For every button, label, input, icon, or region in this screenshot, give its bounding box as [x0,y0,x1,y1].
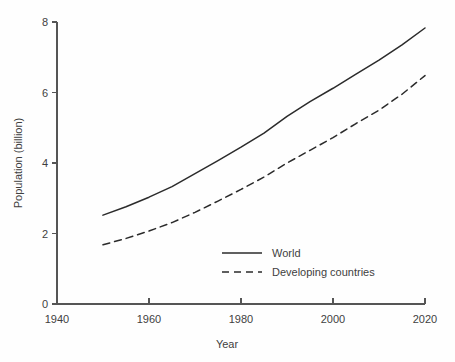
y-axis-ticks: 02468 [42,16,57,310]
x-axis-group: 19401960198020002020 [45,298,437,325]
x-tick-label: 1960 [137,313,161,325]
chart-canvas: 02468 19401960198020002020 WorldDevelopi… [0,0,455,362]
y-axis-group: 02468 [42,16,57,310]
y-tick-label: 6 [42,87,48,99]
y-tick-label: 2 [42,228,48,240]
legend-label-0: World [272,247,301,259]
chart-legend: WorldDeveloping countries [222,247,375,278]
x-tick-label: 1940 [45,313,69,325]
x-tick-label: 2020 [413,313,437,325]
x-axis-title: Year [216,338,239,350]
series-line-world [103,28,425,215]
y-tick-label: 4 [42,157,48,169]
x-tick-label: 2000 [321,313,345,325]
y-axis-title: Population (billion) [12,118,24,209]
y-tick-label: 8 [42,16,48,28]
x-tick-label: 1980 [229,313,253,325]
y-tick-label: 0 [42,298,48,310]
series-line-developing-countries [103,76,425,245]
population-line-chart: 02468 19401960198020002020 WorldDevelopi… [0,0,455,362]
data-series-group [103,28,425,245]
x-axis-ticks: 19401960198020002020 [45,298,437,325]
legend-label-1: Developing countries [272,266,375,278]
